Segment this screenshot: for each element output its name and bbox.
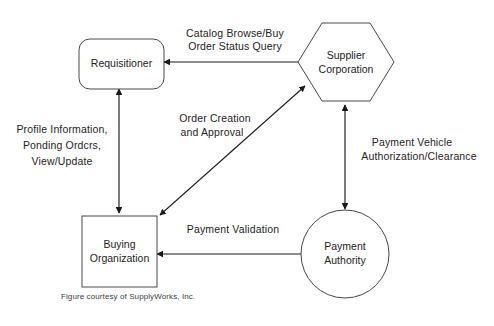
edge-supplier-payment: Payment Vehicle Authorization/Clearance [345, 105, 477, 209]
edge-supplier-payment-label-line2: Authorization/Clearance [361, 150, 477, 162]
edge-requisitioner-buying-label-line3: View/Update [32, 155, 93, 167]
node-supplier-corporation-label-line1: Supplier [327, 49, 366, 61]
node-requisitioner[interactable]: Requisitioner [79, 39, 164, 89]
edge-buying-payment-label-line1: Payment Validation [187, 223, 279, 235]
figure-caption: Figure courtesy of SupplyWorks, Inc. [61, 292, 195, 301]
node-buying-organization-label-line1: Buying [103, 238, 135, 250]
edge-buying-supplier: Order Creation and Approval [160, 86, 305, 215]
node-requisitioner-label: Requisitioner [91, 57, 153, 69]
edge-requisitioner-supplier-label-line2: Order Status Query [188, 40, 282, 52]
node-buying-organization[interactable]: Buying Organization [82, 216, 157, 287]
edge-requisitioner-supplier: Catalog Browse/Buy Order Status Query [164, 27, 307, 62]
edge-buying-supplier-label-line1: Order Creation [179, 112, 251, 124]
node-supplier-corporation-label-line2: Corporation [319, 63, 374, 75]
flow-diagram-canvas: Catalog Browse/Buy Order Status Query Pr… [0, 0, 494, 326]
node-payment-authority-label-line2: Authority [324, 254, 366, 266]
diagram-svg: Catalog Browse/Buy Order Status Query Pr… [0, 0, 494, 326]
edge-requisitioner-buying-label-line1: Profile Information, [16, 123, 107, 135]
edge-requisitioner-buying-label-line2: Ponding Ordcrs, [23, 139, 101, 151]
edge-buying-supplier-line [160, 86, 305, 215]
edge-requisitioner-buying: Profile Information, Ponding Ordcrs, Vie… [16, 89, 119, 213]
edge-supplier-payment-label-line1: Payment Vehicle [372, 136, 452, 148]
node-payment-authority[interactable]: Payment Authority [301, 210, 389, 298]
node-buying-organization-label-line2: Organization [90, 252, 150, 264]
edge-buying-payment: Payment Validation [157, 223, 309, 254]
node-supplier-corporation[interactable]: Supplier Corporation [298, 23, 394, 101]
edge-buying-supplier-label-line2: and Approval [180, 126, 243, 138]
node-payment-authority-label-line1: Payment [324, 240, 366, 252]
edge-requisitioner-supplier-label-line1: Catalog Browse/Buy [186, 27, 284, 39]
